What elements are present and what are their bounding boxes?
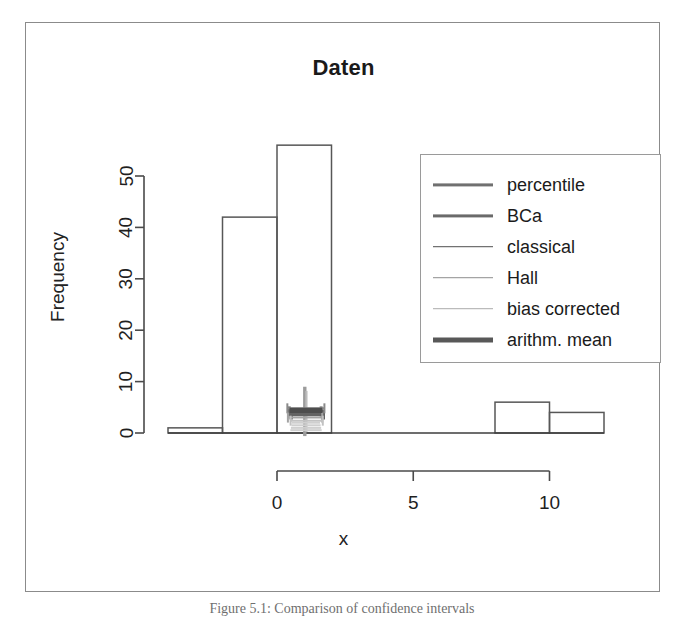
histogram-bar [495,402,550,433]
legend-item: classical [433,231,650,262]
legend-line-icon [433,241,493,253]
y-axis-tick-label: 10 [116,371,137,392]
legend-line-icon [433,272,493,284]
legend-item-label: bias corrected [507,300,620,318]
legend-item: percentile [433,169,650,200]
x-axis-tick-label: 5 [408,492,419,513]
plot-area: Daten Frequency x 010203040500510 percen… [26,23,661,593]
y-axis-tick-label: 20 [116,320,137,341]
figure-caption: Figure 5.1: Comparison of confidence int… [0,601,684,617]
y-axis-tick-label: 0 [116,428,137,439]
y-axis-tick-label: 50 [116,165,137,186]
legend-item-label: BCa [507,207,542,225]
y-axis-tick-label: 40 [116,217,137,238]
histogram-bar [223,217,278,433]
y-axis-tick-label: 30 [116,268,137,289]
legend-item: arithm. mean [433,324,650,355]
legend-rows: percentileBCaclassicalHallbias corrected… [421,155,660,362]
legend-item-label: classical [507,238,575,256]
legend-line-icon [433,303,493,315]
x-axis-tick-label: 10 [539,492,560,513]
legend-item: BCa [433,200,650,231]
legend-item: bias corrected [433,293,650,324]
legend-item: Hall [433,262,650,293]
chart-legend: percentileBCaclassicalHallbias corrected… [420,154,661,363]
legend-item-label: arithm. mean [507,331,612,349]
figure-frame: Daten Frequency x 010203040500510 percen… [25,22,660,592]
figure-page: Daten Frequency x 010203040500510 percen… [0,0,684,619]
legend-line-icon [433,179,493,191]
legend-item-label: percentile [507,176,585,194]
confidence-interval-overlay [287,387,324,436]
x-axis-tick-label: 0 [272,492,283,513]
legend-line-icon [433,210,493,222]
legend-item-label: Hall [507,269,538,287]
legend-line-icon [433,334,493,346]
histogram-bar [550,412,605,433]
